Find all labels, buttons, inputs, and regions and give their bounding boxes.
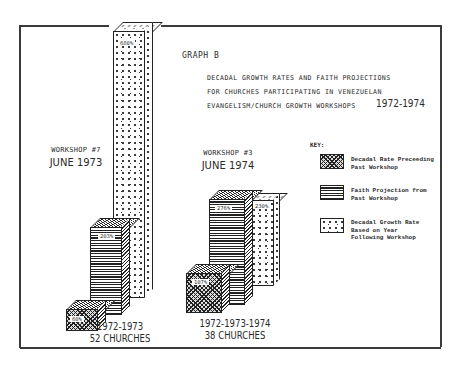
- group2-years: 1972-1973-1974: [188, 318, 282, 329]
- g1-bar2-value: 203%: [98, 233, 115, 239]
- frame-top-left: [19, 25, 109, 27]
- key-item-2-line2: Past Workshop: [351, 195, 427, 203]
- key-item-2: Faith Projection from Past Workshop: [351, 187, 427, 202]
- title-years: 1972-1974: [376, 98, 425, 109]
- g2-bar3-value: 230%: [253, 203, 270, 209]
- group2-workshop: WORKSHOP #3: [197, 149, 259, 157]
- group1-years: 1972-1973: [82, 321, 159, 332]
- key-item-1-line1: Decadal Rate Preceeding: [351, 156, 434, 164]
- g2-bar3-front: [250, 200, 274, 286]
- key-swatch-crosshatch: [320, 154, 344, 169]
- frame-right: [440, 25, 442, 347]
- key-item-3: Decadal Growth Rate Based on Year Follow…: [351, 219, 419, 242]
- group1-workshop: WORKSHOP #7: [46, 146, 106, 154]
- g2-bar3-side: [273, 193, 280, 286]
- key-item-3-line3: Following Workshop: [351, 234, 419, 242]
- key-item-2-line1: Faith Projection from: [351, 187, 427, 195]
- key-swatch-dots: [320, 218, 344, 233]
- key-item-3-line2: Based on Year: [351, 227, 419, 235]
- g2-bar2-value: 276%: [215, 205, 232, 211]
- title-line-3: EVANGELISM/CHURCH GROWTH WORKSHOPS: [207, 102, 356, 110]
- group1-date: JUNE 1973: [46, 157, 106, 168]
- key-item-1-line2: Past Workshop: [351, 164, 434, 172]
- g2-bar2-side: [244, 190, 253, 305]
- key-item-3-line1: Decadal Growth Rate: [351, 219, 419, 227]
- g1-bar2-side: [121, 218, 130, 315]
- title-line-1: DECADAL GROWTH RATES AND FAITH PROJECTIO…: [207, 74, 391, 82]
- g1-bar3-side: [144, 22, 153, 298]
- frame-left: [19, 25, 21, 348]
- g1-bar3-value: 680%: [118, 40, 135, 46]
- key-swatch-horizontal: [320, 185, 344, 200]
- group2-date: JUNE 1974: [197, 160, 259, 171]
- frame-top-right: [161, 25, 441, 27]
- g2-bar1-value: 107%: [192, 279, 209, 285]
- key-title: KEY:: [310, 141, 324, 148]
- group2-churches: 38 CHURCHES: [188, 330, 282, 341]
- graph-label: GRAPH B: [182, 51, 219, 60]
- frame-bottom: [20, 347, 441, 349]
- key-item-1: Decadal Rate Preceeding Past Workshop: [351, 156, 434, 171]
- title-line-2: FOR CHURCHES PARTICIPATING IN VENEZUELAN: [207, 88, 382, 96]
- group1-churches: 52 CHURCHES: [82, 333, 159, 344]
